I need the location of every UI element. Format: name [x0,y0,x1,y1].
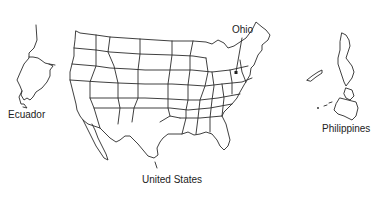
ecuador-outline [17,25,55,108]
philippines-label: Philippines [322,123,370,134]
ohio-label: Ohio [232,24,253,35]
ecuador-label: Ecuador [8,109,45,120]
united-states-label: United States [142,174,202,185]
philippines-outline [307,33,358,120]
united-states-outline [70,22,270,168]
